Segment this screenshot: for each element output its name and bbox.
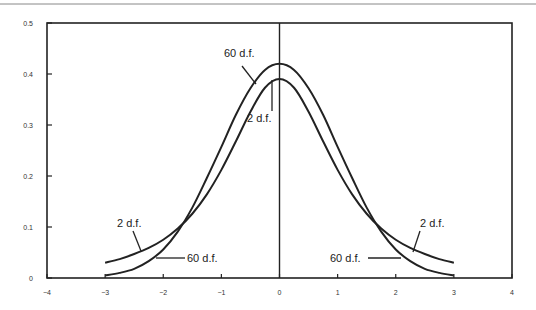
y-tick-label: 0.4 [23,71,33,78]
x-tick-label: −2 [159,289,167,296]
curve-label-60-d-f: 60 d.f. [224,47,255,59]
x-tick-label: 3 [452,289,456,296]
axis-ticks: −4−3−2−10123400.10.20.30.40.5 [23,20,514,296]
t-distribution-chart: −4−3−2−10123400.10.20.30.40.5 60 d.f.2 d… [0,0,536,310]
leader-line [242,66,256,84]
x-tick-label: 4 [510,289,514,296]
x-tick-label: 0 [278,289,282,296]
leader-line [133,231,141,251]
y-tick-label: 0.1 [23,224,33,231]
curve-label-60-d-f: 60 d.f. [330,252,361,264]
y-tick-label: 0 [29,275,33,282]
curve-label-2-d-f: 2 d.f. [420,217,444,229]
curve-label-60-d-f: 60 d.f. [187,252,218,264]
x-tick-label: −4 [43,289,51,296]
x-tick-label: −3 [101,289,109,296]
curve-label-2-d-f: 2 d.f. [247,112,271,124]
y-tick-label: 0.5 [23,20,33,27]
leader-line [413,231,420,252]
y-tick-label: 0.3 [23,122,33,129]
x-tick-label: 2 [394,289,398,296]
x-tick-label: −1 [217,289,225,296]
x-tick-label: 1 [336,289,340,296]
y-tick-label: 0.2 [23,173,33,180]
plot-frame [47,23,512,278]
curve-label-2-d-f: 2 d.f. [117,217,141,229]
